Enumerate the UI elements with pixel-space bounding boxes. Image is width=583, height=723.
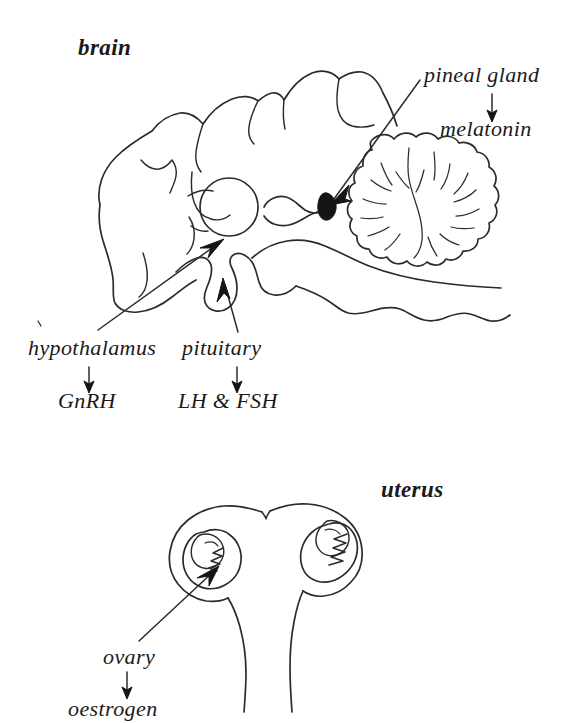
uterus-illustration: [122, 504, 362, 712]
cerebellum-folium-6: [368, 227, 389, 236]
label-brain: brain: [78, 36, 131, 59]
cerebellum-folium-15: [428, 237, 437, 256]
pineal-pointer-line: [334, 80, 420, 199]
cerebellum-outline: [348, 133, 499, 266]
sulcus-7: [139, 253, 147, 297]
stray-ink-mark: [38, 321, 41, 326]
cerebellum-folium-9: [441, 164, 450, 189]
sulcus-2: [249, 101, 258, 144]
label-oestrogen: oestrogen: [68, 698, 158, 720]
label-pineal-gland: pineal gland: [424, 64, 539, 86]
label-gnrh: GnRH: [58, 390, 116, 412]
hypothalamus-pituitary-outline: [176, 253, 296, 311]
brainstem-upper: [252, 240, 501, 288]
hypothalamus-pointer-line: [98, 243, 219, 330]
cerebellum-folium-3: [371, 180, 391, 191]
diagram-artwork: [0, 0, 583, 723]
uterus-right-horn-outline: [270, 504, 362, 596]
cerebrum-lower-left-outline: [99, 205, 196, 312]
cerebellum-folium-17: [416, 170, 424, 192]
cerebellum-folium-10: [454, 173, 468, 194]
cerebellum-folium-7: [385, 234, 400, 250]
diagram-page: brain pineal gland melatonin hypothalamu…: [0, 0, 583, 723]
pineal-pointer-head: [330, 185, 351, 205]
cerebellum-folium-13: [451, 227, 474, 229]
pineal-gland-shape: [318, 193, 336, 220]
uterus-left-body-wall: [228, 598, 246, 712]
sulcus-1: [196, 124, 203, 172]
right-ovary-outline: [301, 523, 358, 582]
sulcus-near-thalamus-2: [187, 217, 194, 254]
label-uterus: uterus: [381, 478, 443, 501]
uterus-right-body-wall: [290, 591, 303, 712]
sulcus-3: [283, 100, 285, 129]
right-ovary-inner-mark: [325, 529, 340, 534]
label-ovary: ovary: [103, 646, 155, 668]
cerebellum-folium-8: [434, 152, 435, 180]
label-melatonin: melatonin: [440, 118, 532, 140]
sulcus-5: [141, 160, 176, 193]
label-pituitary: pituitary: [182, 337, 261, 359]
brainstem-lower: [296, 286, 510, 321]
thalamus-circle: [200, 178, 258, 236]
cerebellum-folium-5: [361, 217, 383, 219]
cerebellum-folium-1: [408, 148, 422, 258]
uterus-fundus-notch: [262, 511, 270, 519]
cerebellum-folium-12: [456, 209, 479, 216]
left-ovary-inner-mark: [205, 542, 218, 546]
cerebellum-folium-14: [440, 234, 459, 245]
cerebellum-folium-16: [396, 172, 409, 188]
label-lh-fsh: LH & FSH: [178, 390, 278, 412]
cerebellum-folium-2: [381, 163, 392, 185]
sulcus-4: [337, 79, 374, 127]
label-hypothalamus: hypothalamus: [28, 337, 156, 359]
oestrogen-hormone-arrow: [122, 672, 132, 699]
hypothalamus-pointer-head: [200, 239, 224, 258]
cerebellum-folium-4: [363, 199, 386, 204]
